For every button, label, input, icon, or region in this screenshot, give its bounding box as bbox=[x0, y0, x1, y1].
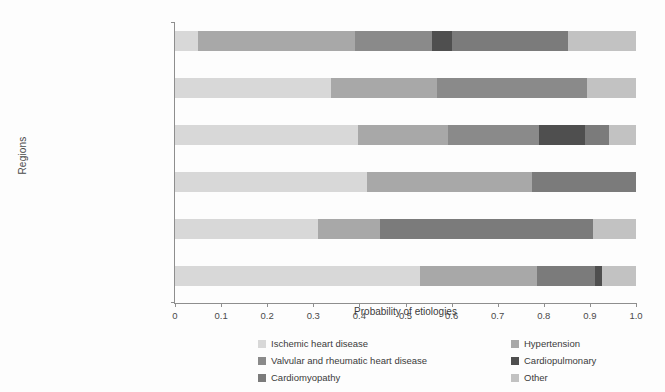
y-axis-line bbox=[174, 22, 175, 303]
bar-segment bbox=[452, 31, 568, 51]
y-axis-top-cap bbox=[171, 22, 175, 23]
stacked-bar-chart: Regions 00.10.20.30.40.50.60.70.80.91.0 … bbox=[0, 0, 665, 392]
bar-segment bbox=[198, 31, 355, 51]
bar-segment bbox=[448, 125, 539, 145]
bar-segment bbox=[593, 219, 636, 239]
bar-segment bbox=[587, 78, 636, 98]
bar-segment bbox=[358, 125, 448, 145]
legend-swatch-icon bbox=[511, 340, 519, 348]
legend-item: Hypertension bbox=[511, 335, 658, 352]
bar-row: Sub-Saharan Africa bbox=[175, 31, 636, 51]
chart-legend: Ischemic heart diseaseHypertensionValvul… bbox=[258, 335, 658, 386]
legend-swatch-icon bbox=[258, 374, 266, 382]
bar-row: Latin America and the Caribbean bbox=[175, 78, 636, 98]
bar-segment bbox=[175, 172, 367, 192]
legend-label: Cardiomyopathy bbox=[271, 372, 340, 383]
bar-segment bbox=[175, 219, 318, 239]
bar-segment bbox=[602, 266, 636, 286]
legend-label: Ischemic heart disease bbox=[271, 338, 368, 349]
bar-segment bbox=[175, 31, 198, 51]
bar-segment bbox=[355, 31, 432, 51]
legend-swatch-icon bbox=[511, 374, 519, 382]
legend-item: Cardiomyopathy bbox=[258, 369, 511, 386]
legend-item: Other bbox=[511, 369, 658, 386]
bar-segment bbox=[595, 266, 602, 286]
legend-swatch-icon bbox=[258, 357, 266, 365]
bar-segment bbox=[380, 219, 593, 239]
plot-area: 00.10.20.30.40.50.60.70.80.91.0 Sub-Saha… bbox=[175, 22, 636, 303]
legend-swatch-icon bbox=[258, 340, 266, 348]
legend-swatch-icon bbox=[511, 357, 519, 365]
bar-segment bbox=[432, 31, 452, 51]
legend-label: Cardiopulmonary bbox=[524, 355, 596, 366]
legend-item: Ischemic heart disease bbox=[258, 335, 511, 352]
legend-label: Hypertension bbox=[524, 338, 580, 349]
legend-label: Other bbox=[524, 372, 548, 383]
bar-segment bbox=[331, 78, 437, 98]
y-axis-title: Regions bbox=[17, 96, 28, 216]
bar-row: Eastern and Central Europe bbox=[175, 172, 636, 192]
bar-segment bbox=[539, 125, 585, 145]
x-axis-title: Probability of etiologies bbox=[175, 306, 636, 317]
x-tick bbox=[636, 303, 637, 307]
bar-segment bbox=[437, 78, 587, 98]
bar-segment bbox=[609, 125, 636, 145]
bar-segment bbox=[537, 266, 596, 286]
bar-segment bbox=[175, 266, 420, 286]
bar-row: East Asia bbox=[175, 125, 636, 145]
legend-item: Cardiopulmonary bbox=[511, 352, 658, 369]
legend-label: Valvular and rheumatic heart disease bbox=[271, 355, 427, 366]
bar-segment bbox=[568, 31, 636, 51]
bar-segment bbox=[532, 172, 636, 192]
legend-item: Valvular and rheumatic heart disease bbox=[258, 352, 511, 369]
bar-segment bbox=[367, 172, 532, 192]
bar-segment bbox=[318, 219, 380, 239]
bar-row: Western, high income bbox=[175, 266, 636, 286]
bar-segment bbox=[420, 266, 537, 286]
bar-segment bbox=[175, 78, 331, 98]
caption-sliver bbox=[12, 0, 572, 4]
bar-segment bbox=[175, 125, 358, 145]
bar-segment bbox=[585, 125, 609, 145]
bar-row: Asia Pacific, high income bbox=[175, 219, 636, 239]
